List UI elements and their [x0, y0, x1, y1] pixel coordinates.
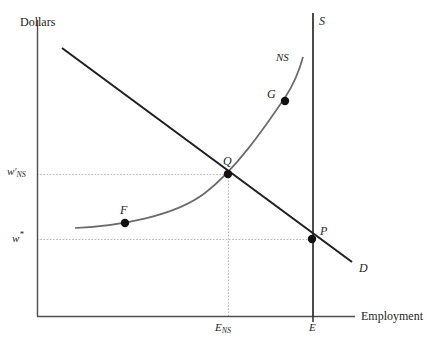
x-axis-title: Employment: [361, 310, 423, 322]
curve-label-NS: NS: [276, 52, 289, 63]
curve-label-S: S: [319, 15, 325, 27]
curve-label-D: D: [359, 262, 368, 274]
point-label-P: P: [320, 225, 327, 237]
chart-svg: [0, 0, 427, 343]
x-tick-e-ns-sub: NS: [222, 326, 231, 335]
point-marker-F: [121, 219, 129, 227]
point-label-G: G: [267, 88, 276, 100]
chart-canvas: Dollars Employment S NS D Q G F P w′NS w…: [0, 0, 427, 343]
x-tick-label-e: E: [309, 322, 316, 333]
y-tick-w-ns-sub: NS: [17, 170, 26, 179]
point-label-F: F: [120, 204, 127, 216]
y-axis-title: Dollars: [20, 16, 55, 28]
point-label-Q: Q: [223, 155, 232, 167]
point-marker-P: [308, 235, 316, 243]
curve-demand-D: [62, 48, 352, 262]
point-marker-G: [281, 97, 289, 105]
y-tick-label-w-ns: w′NS: [7, 166, 26, 177]
y-tick-label-w-star: w*: [12, 230, 24, 244]
x-tick-e-ns-base: E: [215, 321, 222, 333]
point-marker-Q: [224, 170, 232, 178]
y-tick-w-star-sup: *: [19, 229, 24, 239]
x-tick-label-e-ns: ENS: [215, 322, 231, 333]
